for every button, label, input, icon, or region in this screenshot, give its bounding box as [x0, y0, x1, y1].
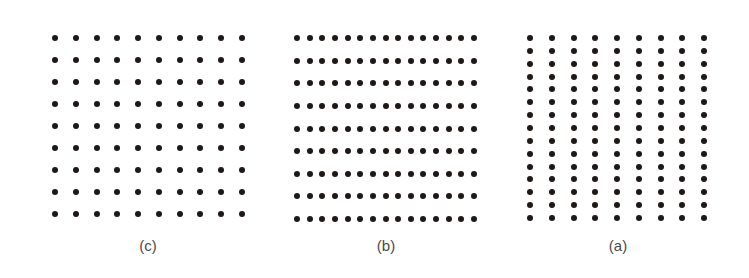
dot [370, 103, 376, 109]
dot [370, 80, 376, 86]
dot [52, 145, 58, 151]
dot [471, 171, 477, 177]
dot [458, 148, 464, 154]
dot [433, 35, 439, 41]
dot [345, 103, 351, 109]
dot [571, 35, 577, 41]
dot [592, 151, 598, 157]
dot [471, 126, 477, 132]
dot [177, 123, 183, 129]
dot [177, 79, 183, 85]
dot [307, 103, 313, 109]
dot [52, 123, 58, 129]
dot [679, 176, 685, 182]
dot [156, 211, 162, 217]
dot [307, 35, 313, 41]
dot [73, 189, 79, 195]
dot [636, 61, 642, 67]
dot [177, 189, 183, 195]
dot [527, 151, 533, 157]
dot [549, 215, 555, 221]
dot [332, 80, 338, 86]
dot [636, 99, 642, 105]
dot [383, 103, 389, 109]
dot [294, 216, 300, 222]
dot [433, 193, 439, 199]
dot [420, 103, 426, 109]
dot [571, 138, 577, 144]
dot [614, 151, 620, 157]
dot [408, 126, 414, 132]
dot [614, 164, 620, 170]
dot [52, 101, 58, 107]
dot [527, 138, 533, 144]
dot [135, 145, 141, 151]
dot [433, 80, 439, 86]
dot [177, 145, 183, 151]
dot [94, 57, 100, 63]
dot [471, 35, 477, 41]
dot [357, 58, 363, 64]
dot [332, 35, 338, 41]
dot [636, 86, 642, 92]
dot [332, 58, 338, 64]
dot [446, 216, 452, 222]
dot [218, 123, 224, 129]
dot [679, 202, 685, 208]
dot [527, 61, 533, 67]
dot [636, 176, 642, 182]
dot [592, 61, 598, 67]
dot [370, 171, 376, 177]
dot [52, 57, 58, 63]
dot [197, 79, 203, 85]
dot [433, 171, 439, 177]
dot [527, 189, 533, 195]
dot [614, 61, 620, 67]
dot [701, 164, 707, 170]
dot [679, 125, 685, 131]
dot [679, 86, 685, 92]
dot [679, 138, 685, 144]
dot [345, 148, 351, 154]
dot [307, 126, 313, 132]
dot [395, 58, 401, 64]
dot [114, 189, 120, 195]
dot [658, 35, 664, 41]
dot [420, 148, 426, 154]
dot [658, 125, 664, 131]
dot [571, 112, 577, 118]
dot [197, 189, 203, 195]
dot [420, 216, 426, 222]
dot [614, 35, 620, 41]
dot [73, 145, 79, 151]
dot [408, 80, 414, 86]
dot [527, 202, 533, 208]
dot [592, 176, 598, 182]
dot [679, 112, 685, 118]
dot [420, 35, 426, 41]
dot [408, 216, 414, 222]
dot [636, 164, 642, 170]
dot [571, 99, 577, 105]
dot [319, 58, 325, 64]
dot [446, 171, 452, 177]
dot [458, 193, 464, 199]
dot [549, 86, 555, 92]
dot [197, 145, 203, 151]
dot [345, 58, 351, 64]
dot [571, 164, 577, 170]
dot [527, 112, 533, 118]
dot [571, 125, 577, 131]
dot [370, 216, 376, 222]
dot [458, 216, 464, 222]
dot [156, 145, 162, 151]
dot [614, 138, 620, 144]
dot [592, 189, 598, 195]
dot [549, 138, 555, 144]
dot [458, 58, 464, 64]
dot [177, 211, 183, 217]
dot [345, 80, 351, 86]
dot [307, 216, 313, 222]
dot [614, 125, 620, 131]
panel-label-b: (b) [377, 238, 395, 253]
